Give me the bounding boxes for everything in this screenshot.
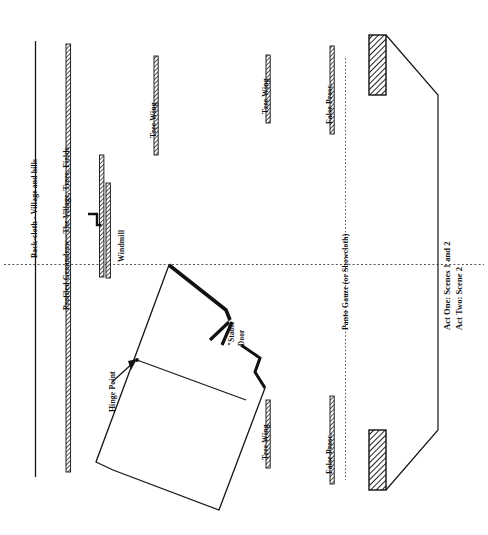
drawing-canvas: Back-cloth - Village and hills Profiled … [0,0,488,535]
label-false-prosc-upper: False Prosc. [326,83,334,124]
proscenium-block-upper [369,35,386,95]
label-stable-door-line1: "Stable" [229,317,237,346]
label-back-cloth: Back-cloth - Village and hills [31,159,39,258]
windmill-band-a [100,155,104,277]
label-hinge-point: Hinge Point [109,371,117,412]
label-tree-wing-downstage: Tree Wing [262,78,270,114]
label-tree-wing-lower: Tree Wing [262,424,270,460]
label-windmill: Windmill [118,230,126,262]
drawing-title-block: Act One: Scenes 1 and 2 Act Two: Scene 2 [441,241,466,330]
cottage-heavy-wall [169,265,230,320]
label-false-prosc-lower: False Prosc. [326,433,334,474]
drawing-linework [0,0,488,535]
label-tree-wing-upstage: Tree Wing [150,102,158,138]
hinge-point-dot [135,358,139,362]
cottage-return-wall [241,345,265,388]
title-line-2: Act Two: Scene 2 [453,241,465,330]
stage-floor-outline [386,35,438,490]
cottage-outline [96,265,265,510]
title-line-1: Act One: Scenes 1 and 2 [441,241,453,330]
proscenium-block-lower [369,430,386,490]
label-profiled-groundrow: Profiled Groundrow - The Village, Trees,… [63,147,71,310]
windmill-band-b [106,183,110,278]
label-stable-door-line2: Door [239,330,247,346]
cottage-hinge-line [137,360,246,400]
label-panto-gauze: Panto Gauze (or Showcloth) [342,234,350,330]
